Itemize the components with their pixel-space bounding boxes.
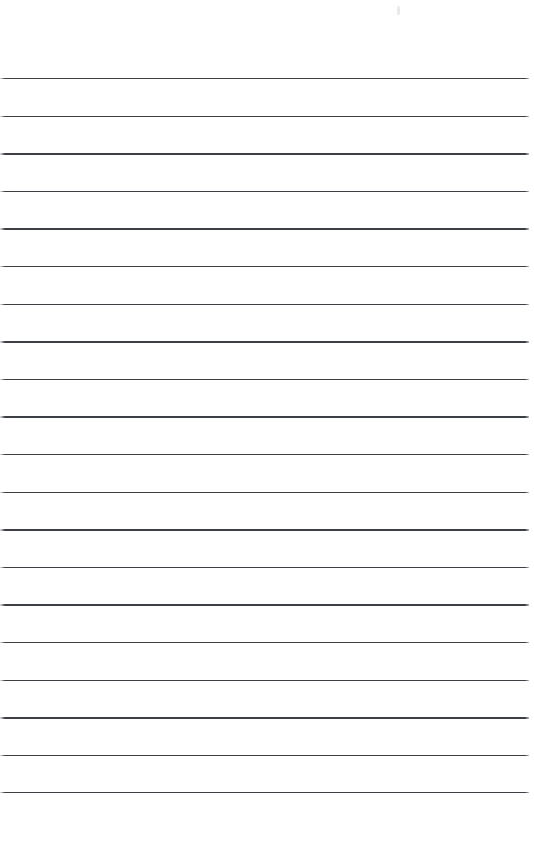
writing-line-slot[interactable] [0, 304, 534, 342]
writing-line-slot[interactable] [0, 604, 534, 642]
writing-line-slot[interactable] [0, 642, 534, 680]
writing-line-slot[interactable] [0, 116, 534, 154]
writing-line-slot[interactable] [0, 228, 534, 266]
writing-line-slot[interactable] [0, 492, 534, 530]
writing-line-slot[interactable] [0, 529, 534, 567]
writing-line-slot[interactable] [0, 755, 534, 792]
notepaper-page [0, 0, 534, 865]
writing-line-slot[interactable] [0, 266, 534, 304]
ruled-writing-area[interactable] [0, 0, 534, 865]
writing-line-slot[interactable] [0, 341, 534, 379]
writing-line-slot[interactable] [0, 191, 534, 229]
writing-line-slot[interactable] [0, 454, 534, 492]
writing-line-slot[interactable] [0, 416, 534, 454]
writing-line-slot[interactable] [0, 78, 534, 116]
writing-line-slot[interactable] [0, 379, 534, 417]
writing-line-slot[interactable] [0, 717, 534, 755]
bottom-margin [0, 792, 534, 865]
writing-line-slot[interactable] [0, 153, 534, 191]
writing-line-slot[interactable] [0, 680, 534, 718]
writing-line-slot[interactable] [0, 0, 534, 78]
writing-line-slot[interactable] [0, 567, 534, 605]
